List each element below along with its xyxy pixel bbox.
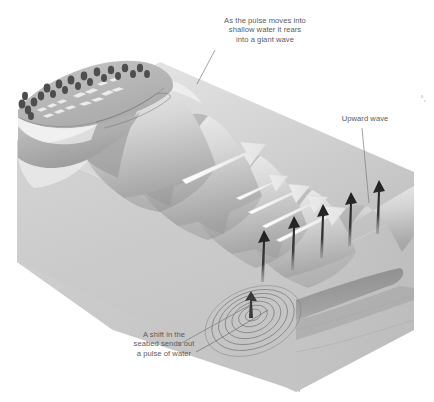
diagram-canvas [0, 0, 434, 402]
leader-line-shallow [197, 50, 215, 84]
scan-artifact [421, 95, 426, 102]
callout-upward-wave: Upward wave [317, 114, 413, 123]
tsunami-diagram [0, 0, 434, 402]
callout-seabed-shift: A shift in the seabed sends out a pulse … [112, 330, 216, 358]
callout-shallow-water: As the pulse moves into shallow water it… [205, 16, 325, 44]
